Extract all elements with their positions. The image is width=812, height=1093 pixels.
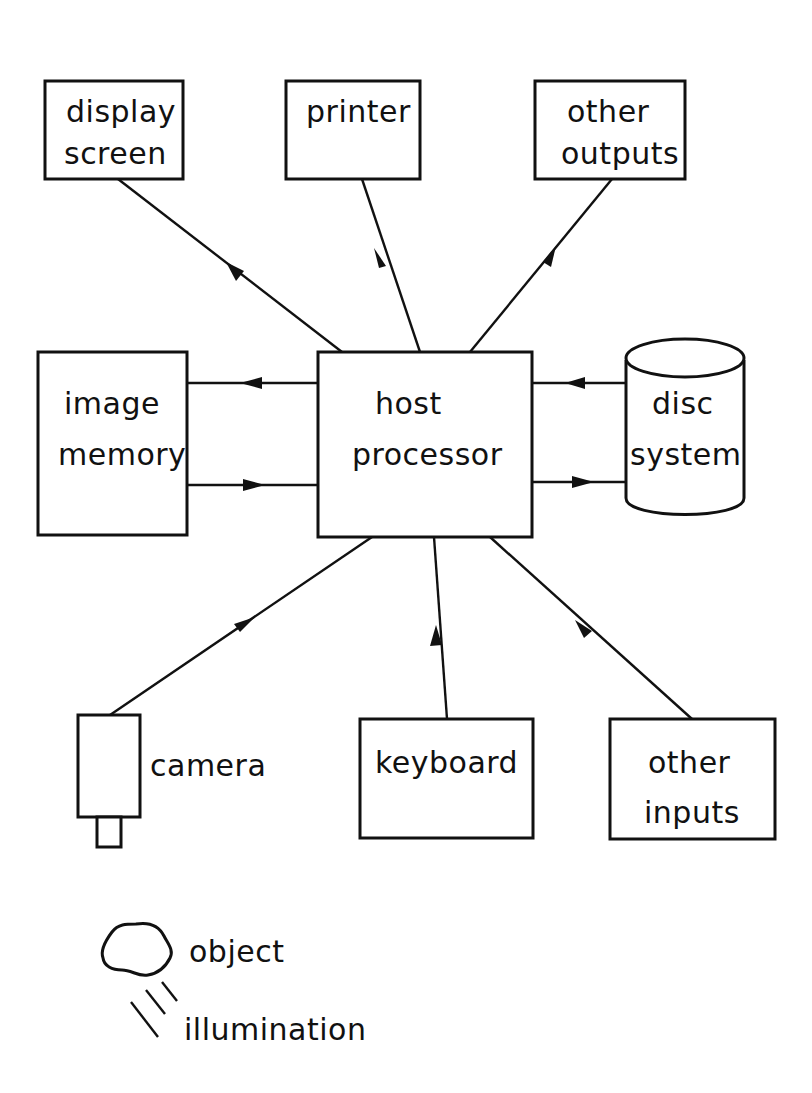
legend-object: object (102, 923, 284, 975)
arrowhead-icon (565, 377, 585, 389)
other-outputs-label-1: other (567, 94, 650, 129)
arrowhead-icon (543, 246, 556, 267)
image-memory-label-2: memory (58, 437, 186, 472)
host-processor-label-2: processor (352, 437, 503, 472)
node-camera: camera (78, 715, 266, 847)
edge-camera-to-host (110, 537, 372, 715)
edge-image-memory-to-host (187, 479, 318, 491)
edge-other-inputs-to-host (490, 537, 692, 719)
node-printer: printer (286, 81, 420, 179)
arrowhead-icon (374, 248, 386, 268)
node-host-processor: host processor (318, 352, 532, 537)
other-inputs-label-2: inputs (644, 795, 740, 830)
illumination-rays-icon (131, 982, 177, 1037)
edge-host-to-image-memory (187, 377, 318, 389)
camera-lens (97, 817, 121, 847)
object-blob-icon (102, 923, 171, 975)
system-block-diagram: display screen printer other outputs ima… (0, 0, 812, 1093)
edge-host-to-display (118, 179, 342, 352)
edge-keyboard-to-host (430, 537, 447, 719)
illumination-label: illumination (184, 1012, 366, 1047)
disc-system-label-1: disc (652, 386, 714, 421)
node-display-screen: display screen (45, 81, 183, 179)
legend-illumination: illumination (131, 982, 366, 1047)
edge-host-to-other-outputs (470, 179, 612, 352)
node-other-inputs: other inputs (610, 719, 775, 839)
display-screen-label-2: screen (64, 136, 167, 171)
arrowhead-icon (226, 262, 244, 281)
edge-host-to-printer (362, 179, 420, 352)
arrowhead-icon (243, 479, 265, 491)
printer-label: printer (306, 94, 411, 129)
image-memory-label-1: image (64, 386, 160, 421)
edge-disc-to-host (532, 377, 626, 389)
arrowhead-icon (572, 476, 594, 488)
arrowhead-icon (240, 377, 262, 389)
other-inputs-label-1: other (648, 745, 731, 780)
keyboard-label: keyboard (375, 745, 518, 780)
object-label: object (189, 934, 284, 969)
node-other-outputs: other outputs (535, 81, 685, 179)
display-screen-label-1: display (66, 94, 176, 129)
camera-label: camera (150, 748, 266, 783)
edge-host-to-disc (532, 476, 626, 488)
node-image-memory: image memory (38, 352, 187, 535)
node-keyboard: keyboard (360, 719, 533, 838)
other-outputs-label-2: outputs (561, 136, 679, 171)
disc-system-label-2: system (630, 437, 741, 472)
host-processor-label-1: host (375, 386, 442, 421)
node-disc-system: disc system (626, 339, 744, 515)
